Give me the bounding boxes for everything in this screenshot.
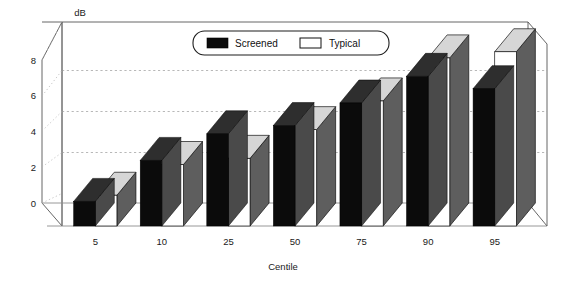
bar-screened-90-front: [407, 76, 429, 226]
bar-screened-10-front: [140, 160, 162, 226]
bar-screened-25-front: [207, 134, 229, 226]
bars-layer: [74, 29, 536, 226]
bar-screened-75-side: [362, 80, 381, 226]
bar-screened-95-front: [473, 89, 495, 226]
y-tick-label-4: 4: [31, 126, 36, 137]
bar-typical-75-side: [383, 78, 402, 226]
bar-group-25: [207, 111, 269, 226]
y-tick-label-6: 6: [31, 90, 36, 101]
bar-group-50: [273, 103, 335, 226]
bar-screened-5-front: [74, 201, 96, 226]
bar-screened-75-front: [340, 103, 362, 226]
gridline-diag-8b: [42, 71, 62, 97]
y-axis-labels: 8 6 4 2 0: [31, 55, 36, 209]
x-tick-label-10: 10: [157, 236, 168, 247]
bar-typical-90-side: [450, 35, 469, 226]
gridline-diag-6: [42, 112, 62, 132]
x-axis-title: Centile: [268, 261, 298, 272]
y-tick-label-8: 8: [31, 55, 36, 66]
gridline-diag-4: [42, 153, 62, 168]
gridline-diag-2: [42, 194, 62, 204]
x-tick-label-5: 5: [93, 236, 98, 247]
y-tick-label-0: 0: [31, 198, 36, 209]
legend: Screened Typical: [193, 31, 389, 55]
x-tick-label-75: 75: [356, 236, 367, 247]
bar-group-95: [473, 29, 535, 226]
y-axis-unit-label: dB: [74, 7, 86, 18]
x-tick-label-25: 25: [223, 236, 234, 247]
legend-label-screened: Screened: [235, 38, 278, 49]
x-tick-label-95: 95: [489, 236, 500, 247]
chart-container: 8 6 4 2 0 dB 9590755025105 Centile Scree…: [0, 0, 564, 288]
top-left-diagonal: [42, 22, 62, 60]
bar-chart: 8 6 4 2 0 dB 9590755025105 Centile Scree…: [0, 0, 564, 288]
bar-screened-90-side: [428, 53, 447, 226]
legend-swatch-typical: [300, 38, 321, 48]
bar-screened-95-side: [495, 66, 514, 226]
x-tick-label-50: 50: [290, 236, 301, 247]
legend-swatch-screened: [207, 38, 228, 48]
bar-group-90: [407, 35, 469, 226]
bar-group-10: [140, 137, 202, 226]
y-tick-label-2: 2: [31, 162, 36, 173]
x-axis-labels: 9590755025105: [93, 236, 500, 247]
bar-typical-95-side: [516, 29, 535, 226]
bar-group-75: [340, 78, 402, 226]
legend-label-typical: Typical: [329, 38, 360, 49]
x-tick-label-90: 90: [423, 236, 434, 247]
bar-screened-50-front: [273, 126, 295, 226]
